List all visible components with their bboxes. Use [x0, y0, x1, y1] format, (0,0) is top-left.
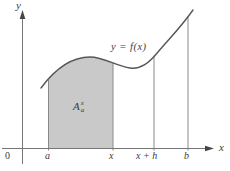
area-function-base: A	[73, 101, 80, 112]
x-axis-arrowhead	[205, 146, 214, 152]
tick-label-x-plus-h: x + h	[136, 151, 157, 161]
origin-label: 0	[5, 151, 10, 161]
shaded-region	[41, 10, 193, 148]
x-axis-label: x	[219, 142, 224, 153]
y-axis-arrowhead	[20, 10, 26, 19]
tick-label-b: b	[184, 151, 189, 161]
tick-label-x: x	[109, 151, 113, 161]
area-function-scripts: x a	[81, 100, 85, 113]
area-function-label: A x a	[73, 100, 84, 113]
y-axis-label: y	[16, 0, 21, 11]
area-function-subscript: a	[81, 107, 85, 114]
area-under-curve-figure: y x 0 a x x + h b y = f(x) A x a	[0, 0, 230, 171]
tick-label-a: a	[45, 151, 50, 161]
plot-svg	[0, 0, 230, 171]
curve-equation-label: y = f(x)	[111, 42, 147, 53]
